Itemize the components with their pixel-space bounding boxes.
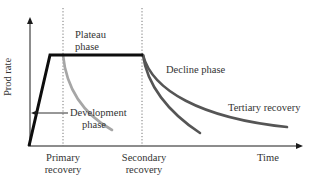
y-axis-label: Prod rate: [2, 52, 14, 102]
plateau-label-line2: phase: [75, 41, 99, 53]
primary-recovery-label-line1: Primary: [42, 152, 84, 164]
production-buildup-plateau-curve: [29, 55, 143, 146]
secondary-recovery-label-line2: recovery: [118, 164, 170, 176]
development-pointer: [31, 111, 68, 116]
x-axis-arrow-icon: [296, 143, 303, 149]
x-axis-label: Time: [257, 152, 279, 164]
primary-recovery-label-line2: recovery: [42, 164, 84, 176]
x-axis: [28, 143, 303, 149]
secondary-recovery-label-line1: Secondary: [118, 152, 170, 164]
development-label-line2: phase: [82, 119, 106, 131]
left-arrow-icon: [31, 111, 37, 116]
plateau-label-line1: Plateau: [75, 29, 106, 41]
y-axis-arrow-icon: [27, 17, 33, 24]
tertiary-recovery-label: Tertiary recovery: [228, 102, 300, 114]
decline-phase-label: Decline phase: [166, 64, 225, 76]
development-label-line1: Development: [70, 107, 127, 119]
